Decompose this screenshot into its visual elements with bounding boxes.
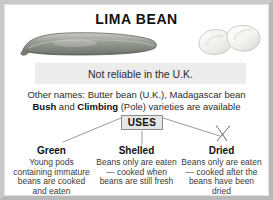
uses-box: USES [121, 115, 163, 130]
uses-columns: Green Young pods containing immature bea… [9, 145, 264, 196]
uses-column-dried-body: Beans only are eaten — cooked after the … [181, 158, 262, 196]
shelled-beans-illustration-icon [193, 22, 265, 62]
card-inner-frame: LIMA BEAN [4, 4, 269, 196]
uses-column-green-title: Green [11, 145, 92, 156]
lima-bean-info-card: LIMA BEAN [0, 0, 273, 200]
uses-label: USES [128, 117, 156, 128]
varieties-conjunction: and [56, 101, 77, 112]
other-names-block: Other names: Butter bean (U.K.), Madagas… [5, 89, 268, 112]
uses-column-dried: Dried Beans only are eaten — cooked afte… [179, 145, 264, 196]
uses-column-shelled-body: Beans only are eaten — cooked when beans… [96, 158, 177, 187]
availability-banner: Not reliable in the U.K. [35, 63, 246, 84]
uses-column-shelled-title: Shelled [96, 145, 177, 156]
page-title: LIMA BEAN [5, 11, 268, 27]
uses-column-shelled: Shelled Beans only are eaten — cooked wh… [94, 145, 179, 187]
varieties-tail: (Pole) varieties are available [118, 101, 241, 112]
drying-sparkle-icon [214, 124, 232, 144]
bean-pod-illustration-icon [19, 28, 159, 58]
variety-bush: Bush [32, 101, 56, 112]
availability-banner-text: Not reliable in the U.K. [88, 68, 193, 80]
uses-column-green: Green Young pods containing immature bea… [9, 145, 94, 196]
variety-climbing: Climbing [77, 101, 118, 112]
uses-column-dried-title: Dried [181, 145, 262, 156]
varieties-line: Bush and Climbing (Pole) varieties are a… [5, 101, 268, 113]
other-names-line: Other names: Butter bean (U.K.), Madagas… [5, 89, 268, 101]
uses-column-green-body: Young pods containing immature beans are… [11, 158, 92, 196]
